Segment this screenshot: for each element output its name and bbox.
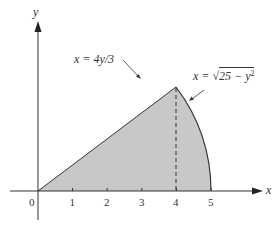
- pointer-line-label: [123, 60, 139, 77]
- x-tick-label-5: 5: [208, 197, 214, 208]
- region-diagram: y x 0 1 2 3 4 5 x = 4y/3 x = √25 − y2: [0, 0, 280, 228]
- x-tick-label-1: 1: [70, 197, 76, 208]
- y-axis-label: y: [33, 6, 38, 18]
- radicand-exponent: 2: [250, 69, 254, 78]
- arc-equation-lhs: x =: [193, 69, 212, 83]
- line-equation-rhs: 4y/3: [93, 52, 114, 66]
- pointer-arc-arrow-icon: [189, 97, 194, 102]
- diagram-canvas: [0, 0, 280, 228]
- x-tick-label-4: 4: [173, 197, 179, 208]
- x-tick-label-2: 2: [104, 197, 110, 208]
- x-axis-label: x: [266, 184, 271, 196]
- origin-label: 0: [29, 197, 35, 208]
- radicand-text: 25 − y: [219, 69, 250, 83]
- line-equation-lhs: x =: [74, 52, 93, 66]
- pointer-arc-label: [192, 90, 204, 99]
- line-equation-label: x = 4y/3: [74, 53, 114, 65]
- shaded-region: [38, 87, 211, 191]
- arc-equation-radicand: 25 − y2: [219, 67, 254, 83]
- x-tick-label-3: 3: [139, 197, 145, 208]
- y-axis-arrow-icon: [35, 21, 42, 32]
- x-axis-arrow-icon: [252, 188, 263, 195]
- arc-equation-label: x = √25 − y2: [193, 70, 254, 82]
